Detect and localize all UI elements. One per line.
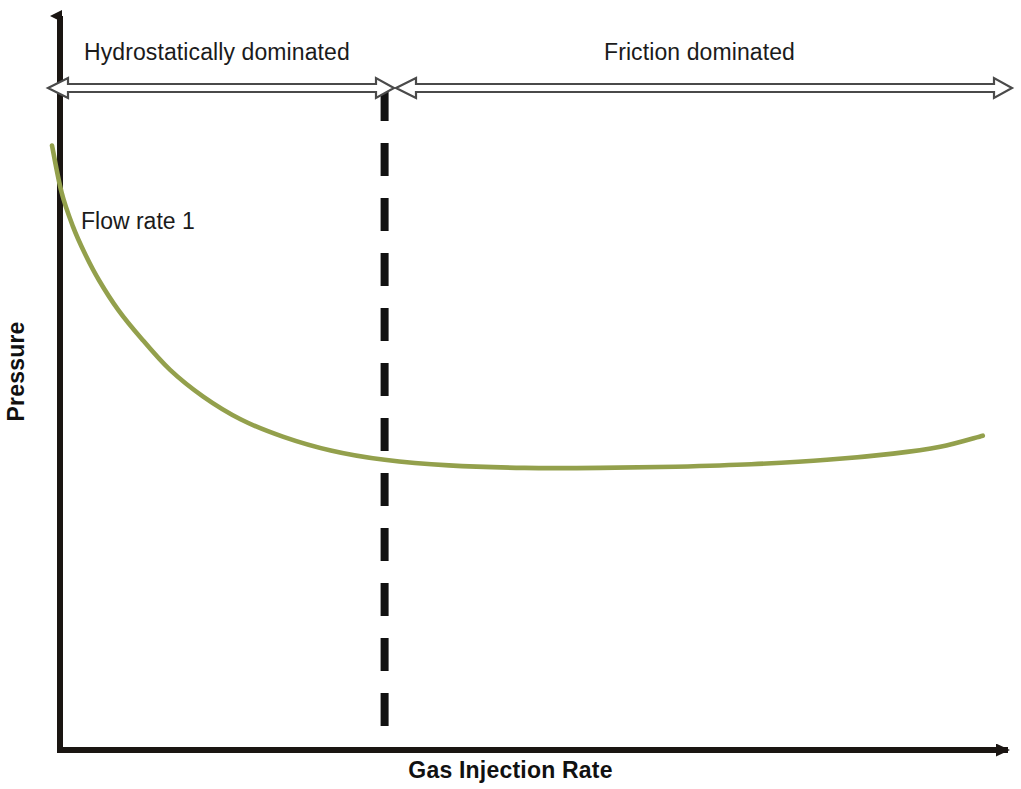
series-label-flow-rate-1: Flow rate 1 bbox=[81, 208, 195, 235]
chart-canvas bbox=[0, 0, 1021, 789]
x-axis-title: Gas Injection Rate bbox=[0, 757, 1021, 784]
span-arrow-friction bbox=[396, 78, 1012, 98]
span-arrow-hydrostatic bbox=[48, 78, 394, 98]
region-label-hydrostatic: Hydrostatically dominated bbox=[84, 39, 350, 66]
y-axis-title: Pressure bbox=[3, 292, 30, 452]
curve-flow-rate-1 bbox=[52, 146, 983, 469]
chart-figure: Hydrostatically dominated Friction domin… bbox=[0, 0, 1021, 789]
region-label-friction: Friction dominated bbox=[604, 39, 795, 66]
